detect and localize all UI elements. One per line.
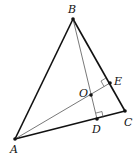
label-a: A xyxy=(9,143,18,156)
triangle-diagram: A B C D E O xyxy=(0,0,139,158)
label-e: E xyxy=(113,75,122,88)
right-angle-mark-e xyxy=(101,78,106,87)
side-ac xyxy=(15,111,125,139)
label-o: O xyxy=(79,87,88,100)
label-c: C xyxy=(124,116,133,129)
side-ab xyxy=(15,19,73,139)
label-b: B xyxy=(67,3,76,16)
label-d: D xyxy=(91,123,101,136)
point-e xyxy=(108,81,112,85)
point-a xyxy=(13,137,17,141)
point-c xyxy=(123,109,127,113)
altitude-bd xyxy=(73,19,97,119)
point-b xyxy=(71,17,75,21)
point-d xyxy=(95,117,99,121)
point-o xyxy=(89,93,93,97)
